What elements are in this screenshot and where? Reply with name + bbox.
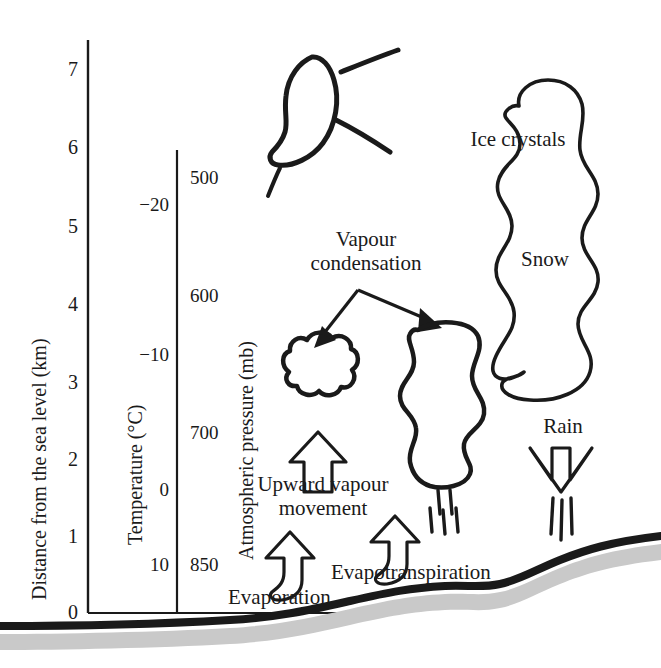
precipitation-streaks-middle [430,490,458,534]
rain-arrow [530,448,592,492]
altitude-tick-3: 3 [52,371,78,393]
altitude-tick-0: 0 [52,601,78,623]
precipitation-streaks-rain [551,498,572,540]
altitude-tick-7: 7 [52,58,78,80]
sun-icon [268,50,398,196]
temperature-axis-title: Temperature (°C) [124,405,146,545]
altitude-axis-title: Distance from the sea level (km) [28,338,50,600]
altitude-tick-1: 1 [52,525,78,547]
temperature-tick-10: 10 [123,554,169,575]
rain-cloud-middle [400,322,484,487]
pressure-tick-700: 700 [190,422,242,443]
altitude-tick-5: 5 [52,215,78,237]
upward-vapour-movement-label: Upward vapour movement [243,473,403,520]
rain-label: Rain [518,415,608,439]
pressure-tick-500: 500 [190,167,242,188]
evaporation-label: Evaporation [228,586,331,610]
pressure-tick-850: 850 [190,554,242,575]
vapour-condensation-label: Vapour condensation [296,228,436,275]
ice-crystals-label: Ice crystals [438,128,598,152]
temperature-tick-minus10: −10 [123,344,169,365]
snow-label: Snow [500,248,590,272]
altitude-tick-2: 2 [52,448,78,470]
temperature-tick-minus20: −20 [123,194,169,215]
altitude-tick-4: 4 [52,293,78,315]
evapotranspiration-label: Evapotranspiration [331,561,491,585]
altitude-tick-6: 6 [52,136,78,158]
hydrological-cycle-diagram: Distance from the sea level (km) Tempera… [0,0,661,668]
pressure-axis-title: Atmospheric pressure (mb) [235,341,257,560]
temperature-tick-0: 0 [123,479,169,500]
pressure-tick-600: 600 [190,285,242,306]
